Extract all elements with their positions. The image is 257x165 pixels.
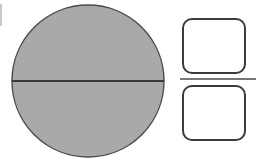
diagram-svg — [0, 0, 257, 165]
bottom-rounded-rectangle — [183, 86, 245, 140]
diagram-canvas — [0, 0, 257, 165]
top-rounded-rectangle — [183, 19, 245, 73]
